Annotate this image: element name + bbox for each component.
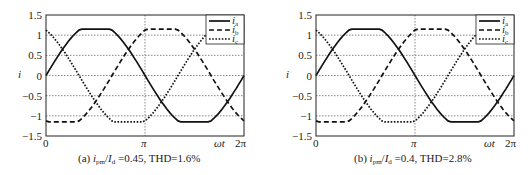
x-axis-label-a: ωt: [214, 137, 226, 149]
x-tick-pi-b: π: [411, 137, 417, 149]
y-tick-label: 1: [37, 29, 43, 41]
chart-panel-a: 1.510.50−0.5−1−1.5 i 0 π ωt 2π iaibic (a…: [18, 9, 247, 166]
y-tick-label: 1: [307, 29, 313, 41]
y-tick-label: −0.5: [292, 90, 312, 102]
y-tick-label: −1: [30, 110, 42, 122]
y-tick-label: 0.5: [28, 49, 42, 61]
y-tick-label: 0: [307, 70, 313, 82]
y-tick-label: −0.5: [22, 90, 42, 102]
y-tick-label: −1.5: [22, 130, 42, 142]
x-tick-0-b: 0: [313, 137, 319, 149]
y-tick-label: 0: [37, 70, 43, 82]
y-tick-label: −1: [300, 110, 312, 122]
legend-b: iaibic: [476, 14, 514, 46]
y-tick-label: 1.5: [28, 9, 42, 21]
x-tick-2pi-a: 2π: [235, 137, 247, 149]
y-ticks-a: 1.510.50−0.5−1−1.5: [22, 9, 42, 142]
y-axis-label-a: i: [18, 68, 21, 80]
chart-panel-b: 1.510.50−0.5−1−1.5 i 0 π ωt 2π iaibic (b…: [286, 9, 517, 166]
x-tick-2pi-b: 2π: [505, 137, 517, 149]
x-tick-pi-a: π: [141, 137, 147, 149]
y-ticks-b: 1.510.50−0.5−1−1.5: [292, 9, 312, 142]
figure: 1.510.50−0.5−1−1.5 i 0 π ωt 2π iaibic (a…: [0, 0, 528, 175]
legend-a: iaibic: [206, 14, 244, 46]
y-tick-label: −1.5: [292, 130, 312, 142]
y-tick-label: 1.5: [298, 9, 312, 21]
caption-a: (a) ipm/Id =0.45, THD=1.6%: [78, 152, 200, 166]
x-tick-0-a: 0: [43, 137, 49, 149]
y-axis-label-b: i: [286, 68, 289, 80]
caption-b: (b) ipm/Id =0.4, THD=2.8%: [354, 152, 472, 166]
y-tick-label: 0.5: [298, 49, 312, 61]
x-axis-label-b: ωt: [484, 137, 496, 149]
